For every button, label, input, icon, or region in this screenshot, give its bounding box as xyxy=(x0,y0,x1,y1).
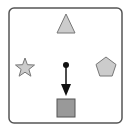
diagram-svg xyxy=(0,0,131,126)
square-shape xyxy=(57,99,75,117)
diagram-canvas xyxy=(0,0,131,126)
